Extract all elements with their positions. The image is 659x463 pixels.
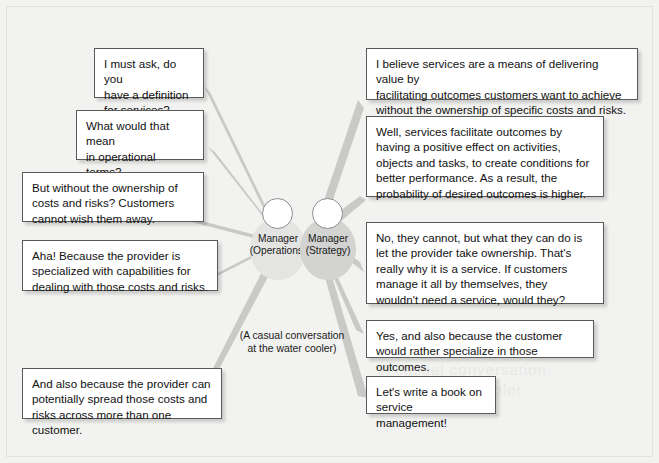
figure-head-strategy xyxy=(312,198,343,229)
speech-bubble-str-1[interactable]: I believe services are a means of delive… xyxy=(366,48,638,100)
speech-bubble-ops-4[interactable]: Aha! Because the provider is specialized… xyxy=(22,240,218,291)
figure-manager-strategy[interactable]: Manager (Strategy) xyxy=(298,198,358,282)
diagram-caption: (A casual conversation at the water cool… xyxy=(212,329,372,355)
speech-bubble-str-4[interactable]: Yes, and also because the customer would… xyxy=(366,320,594,358)
speech-bubble-str-2[interactable]: Well, services facilitate outcomes by ha… xyxy=(366,116,604,197)
speech-bubble-str-3[interactable]: No, they cannot, but what they can do is… xyxy=(366,222,604,304)
speech-bubble-ops-2[interactable]: What would that mean in operational term… xyxy=(76,110,204,160)
speech-bubble-str-5[interactable]: Let's write a book on service management… xyxy=(366,376,496,414)
figure-label-strategy: Manager (Strategy) xyxy=(284,233,372,258)
figure-head-operations xyxy=(262,198,293,229)
speech-bubble-ops-5[interactable]: And also because the provider can potent… xyxy=(22,368,222,419)
diagram-canvas: A casual conversation at the water coole… xyxy=(0,0,659,463)
speech-bubble-ops-3[interactable]: But without the ownership of costs and r… xyxy=(22,172,204,222)
speech-bubble-ops-1[interactable]: I must ask, do you have a definition for… xyxy=(94,48,204,98)
